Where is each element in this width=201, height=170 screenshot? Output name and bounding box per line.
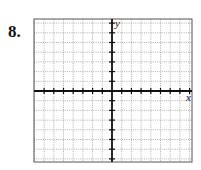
x-axis-label: x <box>185 91 191 103</box>
y-axis-label: y <box>114 17 120 29</box>
coordinate-grid: xy <box>0 0 201 170</box>
